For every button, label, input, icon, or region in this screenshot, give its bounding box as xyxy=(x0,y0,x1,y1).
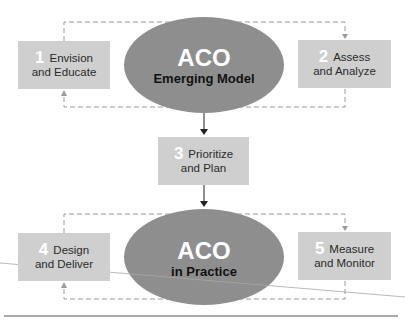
bottom-ellipse-title: ACO xyxy=(177,238,230,264)
arrowhead-to-box2 xyxy=(342,34,348,39)
step-label-line2: and Plan xyxy=(181,161,226,175)
arrowhead-to-box5 xyxy=(342,226,348,231)
arrowhead-to-bottom-ellipse xyxy=(200,201,208,207)
top-ellipse-label: ACO Emerging Model xyxy=(124,42,284,88)
bottom-ellipse-label: ACO in Practice xyxy=(124,235,284,281)
top-ellipse-subtitle: Emerging Model xyxy=(153,71,254,86)
step-label-line1: Assess xyxy=(333,51,370,63)
arrowhead-to-box1 xyxy=(61,90,67,96)
step-box-assess: 2Assess and Analyze xyxy=(298,40,391,88)
arrowhead-to-box3 xyxy=(200,129,208,135)
arrowhead-to-box4 xyxy=(61,282,67,288)
step-label-line2: and Deliver xyxy=(35,257,93,271)
top-ellipse-title: ACO xyxy=(177,45,230,71)
step-label-line1: Measure xyxy=(329,243,374,255)
step-label-line1: Prioritize xyxy=(188,148,233,160)
step-label-line2: and Monitor xyxy=(314,256,375,270)
step-box-design: 4Design and Deliver xyxy=(18,233,110,281)
step-box-envision: 1Envision and Educate xyxy=(18,41,110,89)
step-box-measure: 5Measure and Monitor xyxy=(298,232,391,280)
step-label-line2: and Analyze xyxy=(313,64,376,78)
step-label-line1: Design xyxy=(53,244,89,256)
bottom-ellipse-subtitle: in Practice xyxy=(171,264,237,279)
step-box-prioritize: 3Prioritize and Plan xyxy=(158,137,249,185)
step-label-line1: Envision xyxy=(50,52,93,64)
step-label-line2: and Educate xyxy=(32,65,97,79)
